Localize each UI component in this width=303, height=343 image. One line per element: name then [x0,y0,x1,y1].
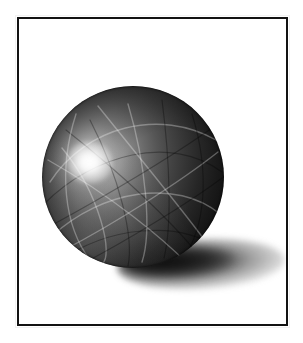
artboard [0,0,303,343]
illustration-scene [19,19,286,324]
picture-frame-border [17,17,288,326]
sphere-rim [42,86,224,268]
sphere-body [42,86,224,268]
sphere [42,86,224,268]
